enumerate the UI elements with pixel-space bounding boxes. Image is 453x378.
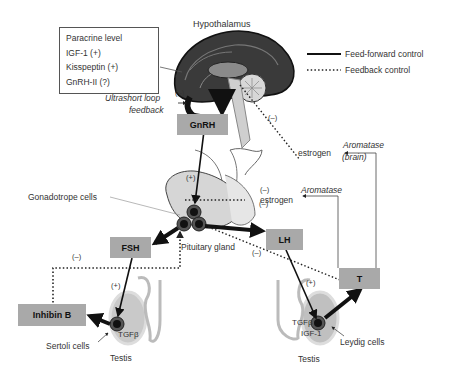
gnrh-plus-sign: (+)	[186, 174, 195, 182]
igf1-right-label: IGF-1	[301, 330, 321, 338]
aromatase-brain-label: Aromatase	[343, 141, 384, 150]
sertoli-to-inhibin-arrow	[90, 316, 110, 324]
testis-left-label: Testis	[110, 354, 132, 363]
estrogen-brain-minus-sign: (–)	[268, 114, 277, 122]
aromatase-brain-path	[345, 153, 376, 268]
paracrine-heading: Paracrine level	[66, 31, 152, 46]
testis-right-label: Testis	[298, 355, 320, 364]
legend-feedback-label: Feedback control	[345, 66, 410, 75]
tgfb-right-label: TGFβ	[292, 319, 313, 327]
lh-plus-sign: (+)	[306, 279, 315, 287]
paracrine-item-kisspeptin: Kisspeptin (+)	[66, 60, 152, 75]
ultrashort-minus-sign: (–)	[175, 89, 184, 97]
fsh-plus-sign: (+)	[111, 282, 120, 290]
fsh-box: FSH	[110, 237, 151, 258]
lh-box: LH	[266, 229, 303, 250]
paracrine-item-igf1: IGF-1 (+)	[66, 46, 152, 61]
estrogen-brain-label: estrogen	[298, 149, 331, 158]
paracrine-box: Paracrine level IGF-1 (+) Kisspeptin (+)…	[59, 27, 159, 94]
aromatase-brain-sub-label: (brain)	[342, 153, 367, 162]
pituitary-to-fsh-arrow	[155, 228, 178, 243]
inhibin-feedback-minus-sign: (–)	[72, 253, 81, 261]
t-box: T	[339, 268, 380, 289]
aromatase-pituitary-path	[303, 196, 338, 268]
inhibin-b-box: Inhibin B	[18, 304, 86, 326]
t-feedback-minus-sign: (–)	[252, 249, 261, 257]
ultrashort-label-line2: feedback	[129, 106, 164, 115]
gonadotrope-cells-label: Gonadotrope cells	[28, 193, 97, 202]
tgfb-left-label: TGFβ	[118, 331, 139, 339]
pituitary-illustration	[166, 149, 262, 231]
sertoli-cells-label: Sertoli cells	[46, 342, 89, 351]
hypothalamus-title: Hypothalamus	[193, 20, 251, 29]
legend-feed-forward-label: Feed-forward control	[345, 50, 423, 59]
pituitary-gland-label: Pituitary gland	[181, 243, 235, 252]
pituitary-to-lh-arrow	[205, 226, 262, 231]
estrogen-pituitary-minus-sign-1: (–)	[260, 186, 269, 194]
ultrashort-label-line1: Ultrashort loop	[105, 94, 160, 103]
gnrh-box: GnRH	[177, 114, 228, 135]
paracrine-item-gnrh2: GnRH-II (?)	[66, 75, 152, 90]
estrogen-pituitary-label: estrogen	[260, 196, 293, 205]
leydig-cells-label: Leydig cells	[340, 338, 384, 347]
aromatase-pituitary-label: Aromatase	[301, 186, 342, 195]
